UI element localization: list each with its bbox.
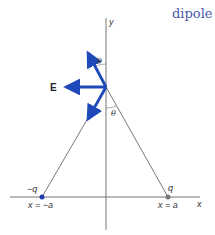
y-axis-label: y: [108, 17, 114, 27]
positive-charge-dot: [166, 195, 171, 200]
theta-label-top: θ: [97, 57, 102, 66]
line-from-positive-charge: [106, 87, 168, 197]
negative-charge-label: −q: [27, 184, 37, 194]
positive-charge-label: q: [168, 183, 173, 193]
negative-charge-position: x = −a: [27, 200, 53, 210]
x-axis-label: x: [196, 199, 202, 209]
theta-arc-bottom: [106, 106, 116, 108]
field-label: E: [50, 82, 57, 93]
positive-charge-position: x = a: [157, 200, 178, 210]
field-arrow-lower: [88, 87, 106, 119]
negative-charge-dot: [40, 195, 45, 200]
theta-label-bottom: θ: [111, 109, 116, 118]
dipole-diagram: y x E θ θ −q x = −a q x = a: [0, 0, 215, 235]
